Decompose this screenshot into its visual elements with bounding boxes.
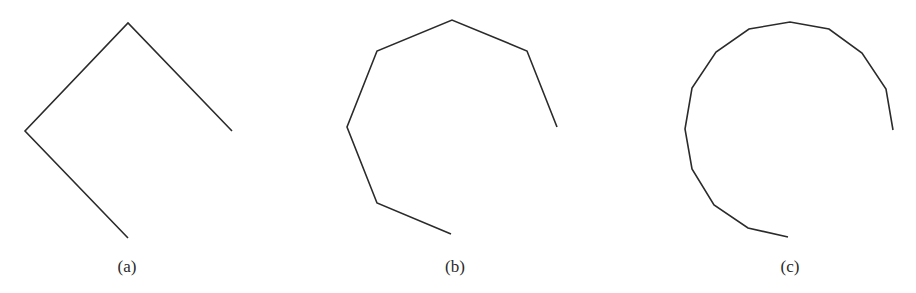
caption-a: (a) — [118, 258, 137, 275]
open-polygon-a — [25, 23, 232, 238]
caption-b: (b) — [445, 258, 465, 275]
open-polygon-b — [347, 20, 557, 234]
figure-canvas — [0, 0, 916, 293]
caption-c: (c) — [781, 258, 800, 275]
open-polygon-c — [685, 22, 893, 237]
